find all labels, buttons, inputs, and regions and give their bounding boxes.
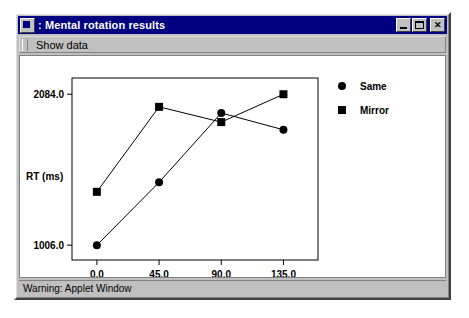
mental-rotation-chart: 1006.02084.00.045.090.0135.0Rotation ang… xyxy=(20,56,446,278)
data-point-same xyxy=(279,126,287,134)
status-text: Warning: Applet Window xyxy=(19,283,132,294)
x-axis-tick-label: 45.0 xyxy=(149,269,169,278)
x-axis-tick-label: 90.0 xyxy=(212,269,232,278)
applet-canvas: 1006.02084.00.045.090.0135.0Rotation ang… xyxy=(19,55,446,278)
status-bar: Warning: Applet Window xyxy=(19,280,446,295)
y-axis-tick-label: 1006.0 xyxy=(33,240,64,251)
window-title: : Mental rotation results xyxy=(38,19,396,31)
title-bar[interactable]: : Mental rotation results ✕ xyxy=(18,16,447,34)
menu-drag-handle[interactable] xyxy=(22,39,28,51)
legend-label-same: Same xyxy=(360,81,387,92)
legend-label-mirror: Mirror xyxy=(360,105,389,116)
applet-window: : Mental rotation results ✕ Show data 10… xyxy=(14,12,451,300)
menu-item-show-data[interactable]: Show data xyxy=(32,38,92,52)
series-line-same xyxy=(97,113,284,245)
legend-marker-mirror xyxy=(338,106,346,114)
y-axis-tick-label: 2084.0 xyxy=(33,89,64,100)
maximize-icon xyxy=(415,21,424,29)
y-axis-label: RT (ms) xyxy=(26,171,63,182)
window-controls: ✕ xyxy=(396,18,445,32)
maximize-button[interactable] xyxy=(412,18,427,32)
x-axis-tick-label: 0.0 xyxy=(90,269,104,278)
data-point-mirror xyxy=(279,90,287,98)
close-icon: ✕ xyxy=(431,19,444,31)
menu-bar: Show data xyxy=(19,36,446,53)
minimize-button[interactable] xyxy=(396,18,411,32)
legend-marker-same xyxy=(338,82,346,90)
screen: : Mental rotation results ✕ Show data 10… xyxy=(0,0,469,318)
data-point-same xyxy=(93,241,101,249)
data-point-same xyxy=(217,109,225,117)
x-axis-tick-label: 135.0 xyxy=(271,269,296,278)
data-point-mirror xyxy=(217,118,225,126)
data-point-same xyxy=(155,178,163,186)
data-point-mirror xyxy=(155,103,163,111)
applet-window-icon xyxy=(20,18,35,33)
data-point-mirror xyxy=(93,188,101,196)
series-line-mirror xyxy=(97,94,284,192)
close-button[interactable]: ✕ xyxy=(430,18,445,32)
minimize-icon xyxy=(400,27,407,29)
